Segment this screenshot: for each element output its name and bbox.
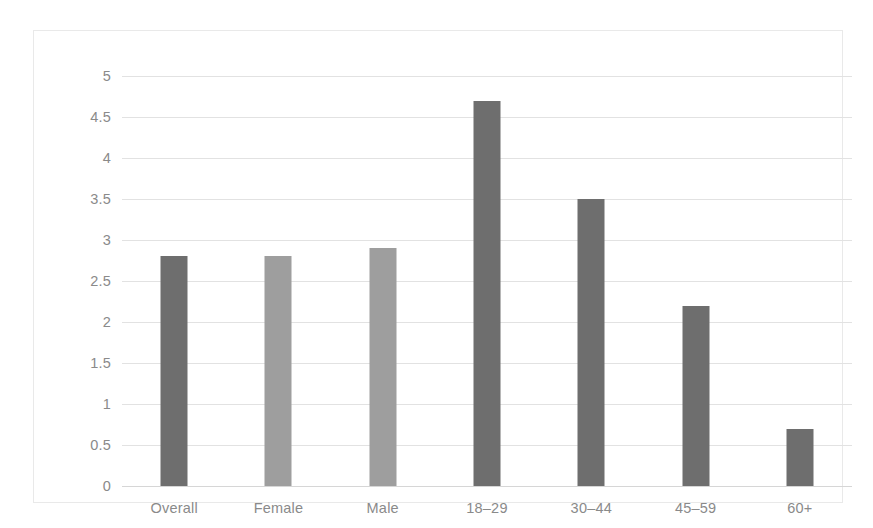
y-axis-tick-label: 1 <box>103 396 111 412</box>
bar-group: Male <box>331 76 435 486</box>
bar-group: 45–59 <box>643 76 747 486</box>
bar[interactable] <box>265 256 292 486</box>
y-axis-tick-label: 3.5 <box>90 191 111 207</box>
bar-group: Overall <box>122 76 226 486</box>
bar-group: Female <box>226 76 330 486</box>
x-axis-tick-label: 30–44 <box>571 500 612 516</box>
bar-group: 30–44 <box>539 76 643 486</box>
chart-plot-frame: 54.543.532.521.510.50 OverallFemaleMale1… <box>33 30 843 503</box>
bar[interactable] <box>682 306 709 486</box>
plot-area: 54.543.532.521.510.50 OverallFemaleMale1… <box>122 76 852 486</box>
x-axis-tick-label: 18–29 <box>466 500 507 516</box>
bar-group: 18–29 <box>435 76 539 486</box>
x-axis-tick-label: 45–59 <box>675 500 716 516</box>
bar[interactable] <box>473 101 500 486</box>
y-axis-tick-label: 4 <box>103 150 111 166</box>
y-axis-tick-label: 2 <box>103 314 111 330</box>
bar[interactable] <box>786 429 813 486</box>
bar[interactable] <box>369 248 396 486</box>
y-axis-tick-label: 0.5 <box>90 437 111 453</box>
axis-baseline: 0 <box>122 486 852 487</box>
bars-layer: OverallFemaleMale18–2930–4445–5960+ <box>122 76 852 486</box>
y-axis-tick-label: 1.5 <box>90 355 111 371</box>
bar[interactable] <box>161 256 188 486</box>
chart-container: 54.543.532.521.510.50 OverallFemaleMale1… <box>0 0 873 528</box>
y-axis-tick-label: 5 <box>103 68 111 84</box>
y-axis-tick-label: 0 <box>103 478 111 494</box>
bar[interactable] <box>578 199 605 486</box>
bar-group: 60+ <box>748 76 852 486</box>
y-axis-tick-label: 3 <box>103 232 111 248</box>
x-axis-tick-label: 60+ <box>787 500 812 516</box>
y-axis-tick-label: 2.5 <box>90 273 111 289</box>
y-axis-tick-label: 4.5 <box>90 109 111 125</box>
x-axis-tick-label: Female <box>254 500 304 516</box>
x-axis-tick-label: Male <box>367 500 399 516</box>
x-axis-tick-label: Overall <box>150 500 197 516</box>
